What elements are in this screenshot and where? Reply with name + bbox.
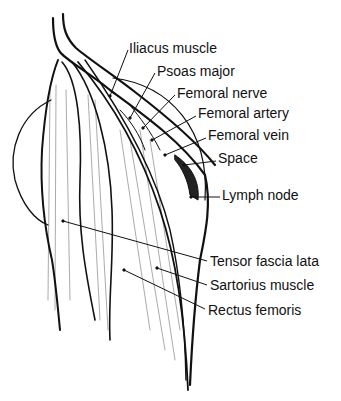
leader-line-iliacus <box>110 50 128 96</box>
label-femoral-artery: Femoral artery <box>198 106 289 120</box>
label-sartorius: Sartorius muscle <box>210 278 314 292</box>
label-femoral-vein: Femoral vein <box>208 128 289 142</box>
leader-line-space <box>184 161 216 165</box>
leader-line-rectus-femoris <box>124 270 205 309</box>
label-femoral-nerve: Femoral nerve <box>177 86 267 100</box>
anatomy-diagram: Iliacus musclePsoas majorFemoral nerveFe… <box>0 0 341 401</box>
label-rectus-femoris: Rectus femoris <box>208 303 301 317</box>
leader-line-femoral-nerve <box>143 95 175 128</box>
label-lymph-node: Lymph node <box>222 188 299 202</box>
leader-line-tensor-fascia-lata <box>63 221 207 261</box>
label-tensor-fascia-lata: Tensor fascia lata <box>210 254 319 268</box>
label-psoas: Psoas major <box>157 64 235 78</box>
label-space: Space <box>218 151 258 165</box>
label-iliacus: Iliacus muscle <box>129 41 217 55</box>
leader-line-psoas <box>130 73 155 118</box>
